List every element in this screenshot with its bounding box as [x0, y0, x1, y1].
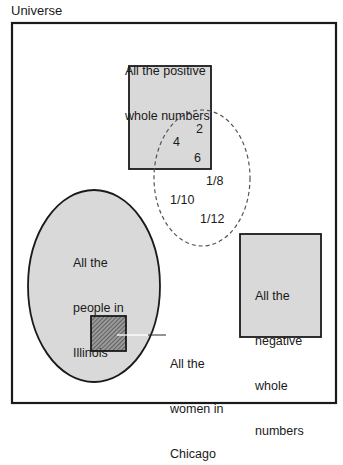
element-4: 4	[173, 135, 180, 149]
element-1-8: 1/8	[206, 174, 223, 188]
negative-whole-numbers-label: All the negative whole numbers	[255, 259, 304, 454]
element-2: 2	[196, 122, 203, 136]
element-6: 6	[194, 151, 201, 165]
people-in-illinois-label: All the people in Illinois	[73, 226, 124, 376]
element-1-12: 1/12	[200, 212, 224, 226]
women-in-chicago-label: All the women in Chicago	[170, 327, 224, 465]
element-1-10: 1/10	[170, 193, 194, 207]
